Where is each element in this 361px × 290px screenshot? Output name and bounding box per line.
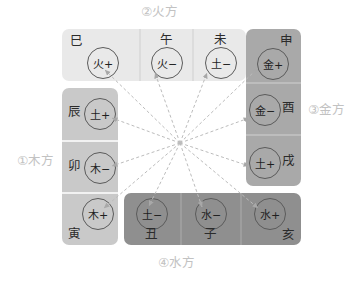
- arrow-to-you: [180, 118, 249, 143]
- arrow-to-shen: [180, 68, 258, 143]
- radial-arrow-group: [0, 0, 361, 290]
- group-label-fire: ②火方: [141, 6, 178, 19]
- arrow-to-xu: [180, 143, 249, 166]
- group-label-metal: ③金方: [308, 104, 345, 117]
- arrow-to-yin: [104, 143, 180, 208]
- arrow-to-chou: [149, 143, 180, 206]
- arrow-to-zi: [180, 143, 202, 207]
- arrow-to-chen: [112, 118, 180, 143]
- diagram-canvas: 巳 火+ 午 火− 未 土− 申 金+ 酉 金− 戌 土+ 辰 土+ 卯 木− …: [0, 0, 361, 290]
- arrow-to-wei: [180, 73, 207, 143]
- arrow-to-si: [105, 70, 180, 143]
- group-label-wood: ①木方: [17, 155, 54, 168]
- group-label-water: ④水方: [158, 257, 195, 270]
- arrow-to-mao: [112, 143, 180, 166]
- arrow-to-wu: [155, 73, 180, 143]
